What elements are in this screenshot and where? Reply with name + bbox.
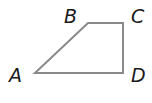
trapezoid-abcd — [35, 23, 123, 73]
trapezoid-diagram: A B C D — [0, 0, 152, 103]
vertex-label-c: C — [131, 5, 145, 27]
vertex-label-b: B — [64, 5, 77, 27]
vertex-label-d: D — [131, 64, 146, 86]
vertex-label-a: A — [7, 64, 22, 86]
